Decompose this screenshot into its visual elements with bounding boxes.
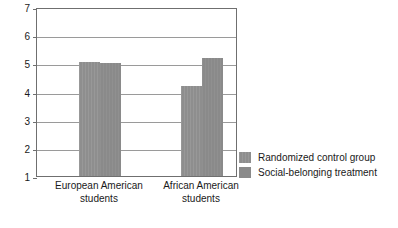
y-axis-tick-mark: [33, 150, 37, 151]
bar: [100, 63, 121, 176]
plot-area: 7654321: [36, 8, 237, 177]
y-axis-title: Subjective happiness: [0, 0, 16, 24]
x-axis-category-label: African Americanstudents: [141, 180, 261, 205]
y-axis-tick-label: 4: [24, 89, 30, 99]
gridline: [37, 37, 236, 38]
bar-chart-figure: Subjective happiness 7654321 European Am…: [0, 0, 398, 228]
chart-legend: Randomized control groupSocial-belonging…: [239, 150, 397, 180]
y-axis-tick-label: 3: [24, 117, 30, 127]
y-axis-tick-mark: [33, 178, 37, 179]
bar: [202, 58, 223, 176]
y-axis-tick-label: 5: [24, 60, 30, 70]
y-axis-tick-label: 6: [24, 32, 30, 42]
category-label-line1: African American: [141, 180, 261, 193]
bar: [79, 62, 100, 176]
legend-item: Randomized control group: [239, 150, 397, 165]
y-axis-tick-mark: [33, 9, 37, 10]
legend-item: Social-belonging treatment: [239, 165, 397, 180]
legend-item-label: Social-belonging treatment: [258, 167, 377, 178]
y-axis-tick-mark: [33, 37, 37, 38]
y-axis-tick-label: 2: [24, 145, 30, 155]
y-axis-tick-label: 1: [24, 173, 30, 183]
legend-color-swatch: [239, 152, 251, 163]
category-label-line2: students: [141, 193, 261, 206]
y-axis-tick-label: 7: [24, 4, 30, 14]
legend-color-swatch: [239, 167, 251, 178]
y-axis-tick-mark: [33, 94, 37, 95]
y-axis-tick-mark: [33, 122, 37, 123]
legend-item-label: Randomized control group: [258, 152, 375, 163]
bar: [181, 86, 202, 176]
y-axis-tick-mark: [33, 65, 37, 66]
